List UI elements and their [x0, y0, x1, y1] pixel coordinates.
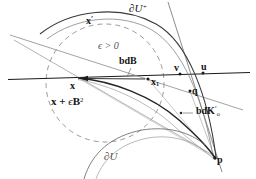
x-prime-mark: ′	[91, 15, 93, 24]
epsilon-condition-text: ϵ > 0	[98, 40, 119, 51]
point-dot-bdk	[180, 112, 183, 115]
bd-k-prime-subscript: o	[217, 110, 220, 117]
p-point-label: p	[217, 155, 223, 165]
u-point-text: u	[201, 61, 207, 72]
boundary-u-label: ∂U	[104, 151, 117, 162]
boundary-u-arc	[84, 129, 205, 179]
ball-label-exponent: 2	[80, 96, 83, 103]
ball-label: x + ϵB2	[51, 96, 83, 107]
x-point-label: x	[70, 81, 75, 91]
q-point-label: q	[192, 86, 198, 96]
x-one-subscript: 1	[156, 80, 159, 87]
u-point-label: u	[201, 62, 207, 72]
point-dot-x1	[147, 78, 150, 81]
bd-k-prime-label: bdK′o	[196, 106, 220, 117]
x-point-text: x	[70, 80, 75, 91]
oblique-line-upper	[10, 35, 243, 110]
ball-label-lead: x +	[51, 95, 68, 107]
boundary-u-plus-text: ∂U	[129, 2, 142, 14]
epsilon-condition-label: ϵ > 0	[98, 41, 119, 51]
x-prime-label: x′	[86, 16, 93, 26]
p-point-text: p	[217, 154, 223, 165]
v-point-text: v	[174, 62, 179, 73]
q-point-text: q	[192, 85, 198, 96]
geometry-figure: ∂U+ x′ ϵ > 0 bdB x x1 v u q bdK′o x + ϵB…	[0, 0, 256, 179]
figure-canvas	[0, 0, 256, 179]
boundary-u-plus-superscript: +	[142, 3, 147, 10]
v-point-label: v	[174, 63, 179, 73]
x-one-label: x1	[151, 77, 159, 88]
bd-k-prime-prefix: bdK	[196, 105, 215, 116]
bd-b-text: bdB	[119, 55, 137, 66]
bd-b-label: bdB	[119, 56, 137, 66]
boundary-u-plus-label: ∂U+	[129, 3, 147, 14]
ball-label-b: B	[73, 95, 80, 107]
boundary-u-text: ∂U	[104, 150, 117, 162]
